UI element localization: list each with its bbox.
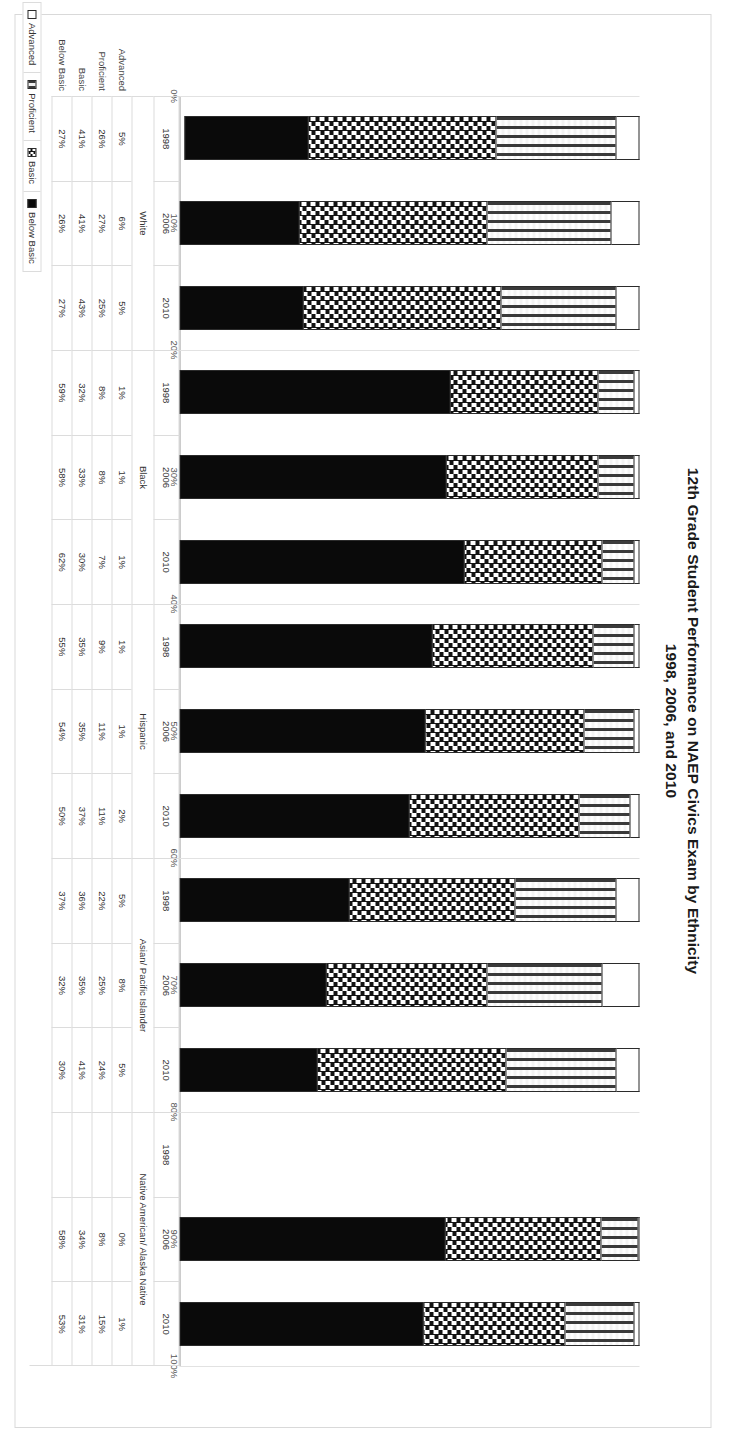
bar-segment-below-basic[interactable]	[179, 370, 450, 414]
bar-segment-advanced[interactable]	[634, 1302, 639, 1346]
data-table-cell: 8%	[91, 435, 111, 520]
bar-segment-advanced[interactable]	[616, 1048, 639, 1092]
data-table-cell: 37%	[71, 773, 91, 858]
bar-segment-proficient[interactable]	[565, 1302, 634, 1346]
bar-segment-basic[interactable]	[425, 709, 584, 753]
chart-title-line2: 1998, 2006, and 2010	[658, 0, 680, 1442]
bar-segment-below-basic[interactable]	[179, 794, 409, 838]
axis-year-label: 2010	[153, 265, 179, 350]
bar-segment-advanced[interactable]	[616, 878, 639, 922]
data-table-cell: 15%	[91, 1281, 111, 1366]
stacked-bar[interactable]	[179, 370, 639, 414]
stacked-bar[interactable]	[179, 201, 639, 245]
bar-segment-basic[interactable]	[326, 963, 487, 1007]
bar-segment-advanced[interactable]	[602, 963, 639, 1007]
stacked-bar[interactable]	[179, 1048, 639, 1092]
legend-item[interactable]: Proficient	[23, 73, 40, 141]
data-table-cell: 37%	[51, 858, 71, 943]
bar-segment-basic[interactable]	[464, 540, 602, 584]
bar-segment-proficient[interactable]	[506, 1048, 616, 1092]
bar-segment-proficient[interactable]	[501, 286, 616, 330]
bar-segment-proficient[interactable]	[487, 201, 611, 245]
bar-segment-below-basic[interactable]	[179, 878, 349, 922]
data-table-cell: 35%	[71, 689, 91, 774]
stacked-bar[interactable]	[179, 963, 639, 1007]
bar-group	[179, 1027, 639, 1112]
data-table-cell: 11%	[91, 773, 111, 858]
legend-item[interactable]: Basic	[23, 141, 40, 192]
bar-segment-proficient[interactable]	[598, 370, 635, 414]
bar-segment-below-basic[interactable]	[179, 1217, 445, 1261]
bar-segment-basic[interactable]	[308, 116, 497, 160]
stacked-bar[interactable]	[179, 624, 639, 668]
data-table-cell: 41%	[71, 96, 91, 181]
bar-segment-proficient[interactable]	[598, 455, 635, 499]
bar-segment-below-basic[interactable]	[179, 1048, 317, 1092]
bar-segment-basic[interactable]	[446, 455, 598, 499]
chart-title: 12th Grade Student Performance on NAEP C…	[658, 0, 703, 1442]
bar-segment-proficient[interactable]	[584, 709, 634, 753]
stacked-bar[interactable]	[179, 455, 639, 499]
axis-group-label: Native American/ Alaska Native	[131, 1112, 153, 1366]
bar-segment-below-basic[interactable]	[184, 116, 308, 160]
bar-segment-basic[interactable]	[450, 370, 597, 414]
data-table-cell: 36%	[71, 858, 91, 943]
stacked-bar[interactable]	[179, 709, 639, 753]
bar-segment-proficient[interactable]	[601, 1217, 638, 1261]
bar-segment-advanced[interactable]	[616, 286, 639, 330]
gridline	[179, 1366, 639, 1367]
bar-segment-advanced[interactable]	[634, 540, 639, 584]
bar-segment-basic[interactable]	[349, 878, 515, 922]
data-table-cell: 5%	[111, 858, 131, 943]
bar-segment-advanced[interactable]	[634, 709, 639, 753]
bar-segment-basic[interactable]	[317, 1048, 506, 1092]
stacked-bar[interactable]	[179, 116, 639, 160]
bar-segment-basic[interactable]	[432, 624, 593, 668]
stacked-bar[interactable]	[179, 1302, 639, 1346]
bar-segment-below-basic[interactable]	[179, 709, 425, 753]
bar-segment-basic[interactable]	[303, 286, 501, 330]
bar-group	[179, 1197, 639, 1282]
bar-segment-basic[interactable]	[299, 201, 488, 245]
bar-segment-below-basic[interactable]	[179, 963, 326, 1007]
data-table-cell: 1%	[111, 604, 131, 689]
data-table-row-header: Advanced	[111, 2, 131, 96]
stacked-bar[interactable]	[179, 794, 639, 838]
bar-segment-advanced[interactable]	[634, 370, 639, 414]
stacked-bar[interactable]	[179, 1217, 639, 1261]
bar-segment-proficient[interactable]	[593, 624, 634, 668]
bar-segment-below-basic[interactable]	[179, 1302, 423, 1346]
bar-segment-advanced[interactable]	[634, 624, 639, 668]
data-table-cell: 2%	[111, 773, 131, 858]
data-table-cell: 26%	[51, 181, 71, 266]
stacked-bar[interactable]	[179, 878, 639, 922]
data-table-cell: 33%	[71, 435, 91, 520]
legend-item[interactable]: Below Basic	[23, 192, 40, 271]
plot-area	[179, 96, 639, 1366]
data-table-cell: 43%	[71, 265, 91, 350]
bar-segment-proficient[interactable]	[515, 878, 616, 922]
bar-segment-basic[interactable]	[445, 1217, 601, 1261]
bar-group	[179, 181, 639, 266]
bar-segment-basic[interactable]	[409, 794, 579, 838]
stacked-bar[interactable]	[179, 286, 639, 330]
bar-segment-proficient[interactable]	[496, 116, 616, 160]
bar-group	[179, 350, 639, 435]
bar-segment-below-basic[interactable]	[179, 624, 432, 668]
bar-segment-below-basic[interactable]	[179, 455, 446, 499]
bar-segment-below-basic[interactable]	[179, 201, 299, 245]
bar-segment-advanced[interactable]	[611, 201, 639, 245]
bar-segment-basic[interactable]	[423, 1302, 566, 1346]
stacked-bar[interactable]	[179, 540, 639, 584]
bar-segment-proficient[interactable]	[602, 540, 634, 584]
bar-segment-advanced[interactable]	[634, 455, 639, 499]
bar-segment-below-basic[interactable]	[179, 286, 303, 330]
bar-segment-below-basic[interactable]	[179, 540, 464, 584]
data-table-cell: 58%	[51, 1197, 71, 1282]
bar-segment-proficient[interactable]	[487, 963, 602, 1007]
bar-segment-proficient[interactable]	[579, 794, 630, 838]
bar-segment-advanced[interactable]	[630, 794, 639, 838]
bar-segment-advanced[interactable]	[616, 116, 639, 160]
axis-year-label: 2006	[153, 689, 179, 774]
legend-item[interactable]: Advanced	[23, 3, 40, 73]
